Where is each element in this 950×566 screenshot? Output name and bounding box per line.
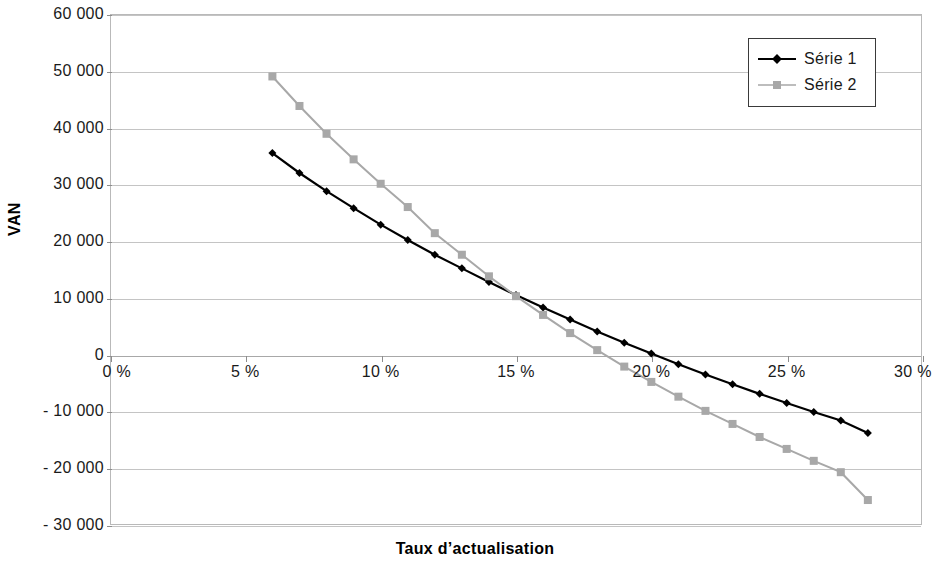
series-line [272, 153, 867, 433]
diamond-marker-icon [539, 304, 547, 312]
series-2 [268, 72, 871, 504]
x-axis-tick-label: 20 % [632, 363, 670, 381]
diamond-marker-icon [864, 429, 872, 437]
y-axis-tick-label: 40 000 [0, 120, 104, 136]
diamond-marker-icon [593, 327, 601, 335]
square-marker-icon [837, 468, 845, 476]
square-marker-icon [295, 102, 303, 110]
square-marker-icon [268, 72, 276, 80]
diamond-marker-icon [458, 264, 466, 272]
legend-swatch-serie-2 [758, 78, 796, 92]
x-axis-tick-label: 25 % [768, 363, 806, 381]
square-marker-icon [593, 346, 601, 354]
series-1 [268, 149, 871, 437]
diamond-marker-icon [810, 408, 818, 416]
square-marker-icon [539, 311, 547, 319]
square-marker-icon [485, 272, 493, 280]
square-marker-icon [729, 420, 737, 428]
x-axis-tick-label: 0 % [103, 363, 131, 381]
square-marker-icon [512, 292, 520, 300]
y-axis-tick-label: 20 000 [0, 233, 104, 249]
square-marker-icon [810, 457, 818, 465]
diamond-marker-icon [837, 417, 845, 425]
y-axis-tick [107, 526, 112, 527]
y-axis-tick-label: - 20 000 [0, 460, 104, 476]
square-marker-icon [674, 393, 682, 401]
legend-label-serie-1: Série 1 [804, 50, 857, 68]
diamond-marker-icon [620, 339, 628, 347]
diamond-marker-icon [566, 315, 574, 323]
square-marker-icon [773, 81, 781, 89]
series-line [272, 76, 867, 500]
square-marker-icon [377, 180, 385, 188]
square-marker-icon [756, 433, 764, 441]
x-axis-tick-label: 30 % [894, 363, 932, 381]
legend-label-serie-2: Série 2 [804, 76, 857, 94]
y-axis-tick-label: 0 [0, 347, 104, 363]
square-marker-icon [458, 251, 466, 259]
legend-item-serie-2[interactable]: Série 2 [758, 72, 866, 98]
diamond-marker-icon [756, 390, 764, 398]
x-axis-tick-label: 10 % [362, 363, 400, 381]
x-axis-title: Taux d’actualisation [0, 540, 950, 558]
y-axis-tick-label: - 10 000 [0, 403, 104, 419]
legend-swatch-serie-1 [758, 52, 796, 66]
y-axis-tick-label: 60 000 [0, 6, 104, 22]
square-marker-icon [701, 407, 709, 415]
x-axis-tick-labels: 0 %5 %10 %15 %20 %25 %30 % [110, 363, 922, 387]
diamond-marker-icon [647, 350, 655, 358]
diamond-marker-icon [772, 54, 782, 64]
square-marker-icon [404, 203, 412, 211]
square-marker-icon [431, 229, 439, 237]
y-axis-tick-label: 30 000 [0, 176, 104, 192]
x-axis-tick [923, 356, 924, 362]
chart-legend: Série 1 Série 2 [748, 38, 876, 107]
square-marker-icon [350, 155, 358, 163]
square-marker-icon [783, 445, 791, 453]
x-axis-tick-label: 5 % [231, 363, 259, 381]
diamond-marker-icon [431, 251, 439, 259]
legend-item-serie-1[interactable]: Série 1 [758, 46, 866, 72]
y-axis-tick-label: - 30 000 [0, 517, 104, 533]
gridline [111, 526, 921, 527]
x-axis-tick-label: 15 % [497, 363, 535, 381]
square-marker-icon [864, 496, 872, 504]
chart-container: VAN 60 00050 00040 00030 00020 00010 000… [0, 0, 950, 566]
diamond-marker-icon [783, 399, 791, 407]
square-marker-icon [323, 130, 331, 138]
square-marker-icon [566, 329, 574, 337]
y-axis-tick-label: 50 000 [0, 63, 104, 79]
y-axis-tick-labels: 60 00050 00040 00030 00020 00010 0000- 1… [0, 14, 104, 525]
y-axis-tick-label: 10 000 [0, 290, 104, 306]
